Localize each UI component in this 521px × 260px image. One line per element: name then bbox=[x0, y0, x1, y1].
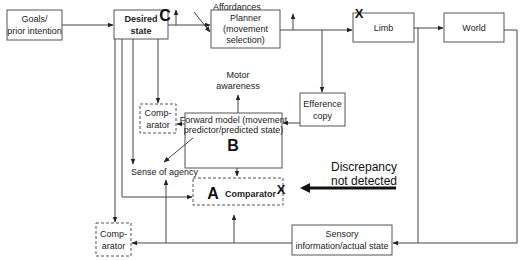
sensory-node: Sensory information/actual state bbox=[292, 225, 392, 255]
planner-label-1: Planner bbox=[230, 13, 261, 23]
limb-label: Limb bbox=[374, 23, 394, 33]
comparator-bottom-label-1: Comp- bbox=[100, 229, 127, 239]
sensory-label-2: information/actual state bbox=[295, 241, 388, 251]
discrepancy-label-1: Discrepancy bbox=[331, 160, 397, 174]
desired-state-label-2: state bbox=[130, 26, 151, 36]
planner-label-3: selection) bbox=[226, 35, 265, 45]
comparator-a-x-mark: X bbox=[277, 182, 286, 197]
comparator-top-node: Comp- arator bbox=[140, 104, 176, 133]
comparator-a-node: A Comparator bbox=[193, 178, 283, 205]
comparator-top-label-1: Comp- bbox=[144, 108, 171, 118]
efference-label-2: copy bbox=[313, 111, 333, 121]
discrepancy-label-2: not detected bbox=[331, 174, 397, 188]
planner-node: Planner (movement selection) bbox=[211, 10, 280, 48]
comparator-bottom-label-2: arator bbox=[102, 241, 126, 251]
agency-diagram: Goals/ prior intention Desired state C A… bbox=[0, 0, 521, 260]
motor-awareness-label-1: Motor bbox=[226, 70, 249, 80]
goals-node: Goals/ prior intention bbox=[7, 10, 62, 40]
affordances-arrow bbox=[194, 12, 210, 32]
limb-x-mark: X bbox=[355, 6, 364, 21]
world-node: World bbox=[444, 13, 504, 42]
goals-label-2: prior intention bbox=[7, 26, 62, 36]
comparator-a-label: Comparator bbox=[225, 189, 277, 199]
marker-a: A bbox=[207, 185, 219, 202]
comparator-bottom-node: Comp- arator bbox=[96, 223, 131, 256]
sense-of-agency-label: Sense of agency bbox=[131, 167, 199, 177]
marker-b: B bbox=[227, 137, 239, 154]
marker-c: C bbox=[159, 7, 171, 24]
forward-model-label-2: predictor/predicted state) bbox=[184, 125, 284, 135]
comparator-top-label-2: arator bbox=[146, 120, 170, 130]
desired-state-label-1: Desired bbox=[124, 14, 157, 24]
planner-label-2: (movement bbox=[223, 24, 269, 34]
forward-model-label-1: Forward model (movement bbox=[180, 115, 288, 125]
world-feedback-arrow bbox=[393, 30, 517, 243]
discrepancy-arrowhead bbox=[300, 183, 310, 193]
efference-label-1: Efference bbox=[303, 99, 341, 109]
world-label: World bbox=[462, 23, 485, 33]
forward-model-node: Forward model (movement predictor/predic… bbox=[180, 113, 288, 168]
efference-copy-node: Efference copy bbox=[300, 93, 345, 126]
motor-awareness-label-2: awareness bbox=[216, 81, 260, 91]
sensory-label-1: Sensory bbox=[325, 229, 359, 239]
goals-label-1: Goals/ bbox=[21, 14, 48, 24]
